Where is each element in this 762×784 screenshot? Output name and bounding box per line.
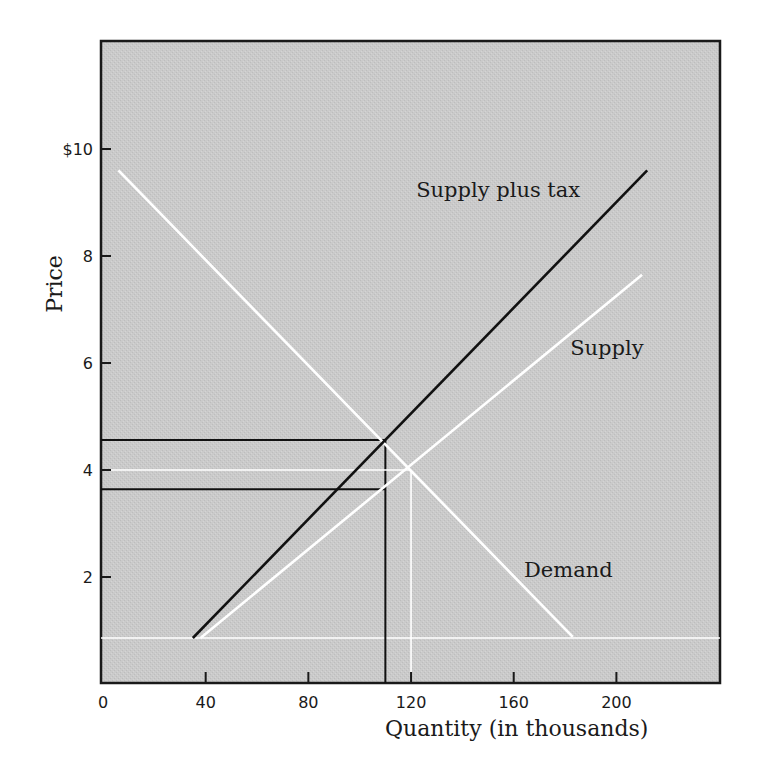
x-axis-title: Quantity (in thousands) [385, 716, 648, 741]
y-tick-label: 4 [83, 461, 93, 480]
x-tick-label: 40 [196, 693, 216, 712]
y-tick-label: 2 [83, 568, 93, 587]
y-tick-label: 8 [83, 247, 93, 266]
x-tick-label: 200 [601, 693, 632, 712]
supply-demand-tax-chart: 04080120160200 2468$10 Supply plus taxSu… [0, 0, 762, 784]
y-tick-label: $10 [62, 140, 93, 159]
y-axis-title: Price [42, 255, 67, 313]
supply-plus-tax-label: Supply plus tax [416, 178, 580, 202]
demand-label: Demand [524, 558, 613, 582]
y-tick-label: 6 [83, 354, 93, 373]
x-tick-label: 120 [396, 693, 427, 712]
x-tick-label: 80 [298, 693, 318, 712]
x-tick-label: 0 [98, 693, 108, 712]
x-tick-label: 160 [498, 693, 529, 712]
supply-label: Supply [570, 336, 644, 360]
